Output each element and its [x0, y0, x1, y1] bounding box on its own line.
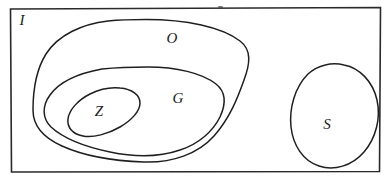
- set-label-G: G: [173, 90, 184, 106]
- euler-diagram: I O G Z S: [0, 0, 388, 183]
- set-label-S: S: [323, 116, 331, 132]
- set-curve-Z: [68, 88, 140, 137]
- set-curve-S: [291, 64, 379, 168]
- frame-artifact-mark: [218, 6, 223, 8]
- set-label-Z: Z: [95, 103, 104, 119]
- set-label-O: O: [167, 30, 178, 46]
- set-label-I: I: [19, 12, 26, 28]
- set-curve-O: [33, 20, 249, 163]
- diagram-canvas: I O G Z S: [0, 0, 388, 183]
